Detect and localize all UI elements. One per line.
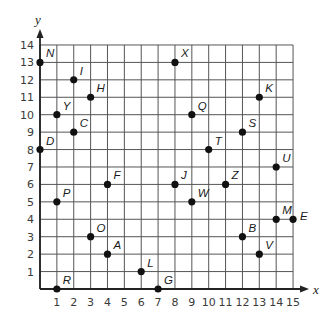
point-label-Y: Y — [63, 100, 72, 112]
x-tick-label: 3 — [87, 296, 94, 309]
point-T — [205, 146, 212, 153]
point-G — [154, 285, 161, 292]
y-tick-label: 6 — [27, 178, 34, 191]
coordinate-grid: 1234567891011121314151234567891011121314… — [0, 0, 335, 318]
grid-lines — [40, 45, 293, 289]
point-C — [70, 129, 77, 136]
y-tick-label: 12 — [20, 74, 34, 87]
y-axis-label: y — [33, 12, 41, 27]
y-tick-label: 10 — [20, 109, 34, 122]
x-tick-label: 5 — [121, 296, 128, 309]
x-tick-label: 1 — [53, 296, 60, 309]
point-label-M: M — [282, 204, 292, 216]
point-Z — [222, 181, 229, 188]
point-S — [239, 129, 246, 136]
point-W — [188, 198, 195, 205]
point-label-X: X — [180, 47, 190, 59]
axes — [37, 29, 310, 293]
y-tick-label: 11 — [20, 91, 34, 104]
point-label-P: P — [63, 187, 71, 199]
x-tick-label: 9 — [188, 296, 195, 309]
y-tick-label: 4 — [27, 213, 34, 226]
point-label-V: V — [265, 239, 274, 251]
point-J — [171, 181, 178, 188]
point-X — [171, 59, 178, 66]
point-R — [53, 285, 60, 292]
x-tick-label: 13 — [252, 296, 266, 309]
y-tick-label: 9 — [27, 126, 34, 139]
point-label-L: L — [147, 257, 153, 269]
y-tick-label: 7 — [27, 161, 34, 174]
y-tick-label: 1 — [27, 266, 34, 279]
x-tick-label: 2 — [70, 296, 77, 309]
point-D — [36, 146, 43, 153]
point-label-D: D — [46, 135, 54, 147]
point-label-S: S — [248, 117, 256, 129]
point-label-Z: Z — [231, 169, 240, 181]
point-label-I: I — [80, 65, 84, 77]
point-U — [273, 163, 280, 170]
point-label-N: N — [46, 47, 55, 59]
point-label-C: C — [80, 117, 89, 129]
point-K — [256, 94, 263, 101]
y-tick-label: 13 — [20, 56, 34, 69]
point-Q — [188, 111, 195, 118]
y-tick-label: 5 — [27, 196, 34, 209]
point-label-F: F — [113, 169, 121, 181]
point-label-H: H — [97, 82, 106, 94]
y-tick-label: 2 — [27, 248, 34, 261]
point-label-O: O — [97, 222, 106, 234]
x-tick-label: 11 — [219, 296, 233, 309]
point-label-E: E — [300, 210, 308, 222]
point-H — [87, 94, 94, 101]
point-label-W: W — [198, 187, 210, 199]
y-tick-label: 14 — [20, 39, 34, 52]
point-label-R: R — [63, 274, 71, 286]
point-Y — [53, 111, 60, 118]
point-L — [138, 268, 145, 275]
x-tick-label: 10 — [202, 296, 216, 309]
point-A — [104, 251, 111, 258]
x-axis-label: x — [312, 282, 319, 297]
point-V — [256, 251, 263, 258]
point-label-T: T — [215, 135, 223, 147]
point-label-B: B — [248, 222, 256, 234]
point-M — [273, 216, 280, 223]
x-tick-label: 4 — [104, 296, 111, 309]
point-label-U: U — [282, 152, 291, 164]
point-N — [36, 59, 43, 66]
point-label-K: K — [265, 82, 274, 94]
y-axis-arrow-icon — [37, 29, 44, 38]
x-tick-label: 6 — [138, 296, 145, 309]
point-P — [53, 198, 60, 205]
y-tick-label: 8 — [27, 144, 34, 157]
x-tick-label: 15 — [286, 296, 300, 309]
x-axis-arrow-icon — [300, 286, 309, 293]
point-O — [87, 233, 94, 240]
point-B — [239, 233, 246, 240]
points: NIHYCDFPOALRGXKQSTUJZWMEBV — [36, 47, 308, 292]
point-label-J: J — [180, 169, 187, 181]
point-E — [289, 216, 296, 223]
point-I — [70, 76, 77, 83]
point-label-G: G — [164, 274, 173, 286]
point-label-A: A — [112, 239, 121, 251]
x-tick-label: 8 — [171, 296, 178, 309]
x-tick-label: 14 — [269, 296, 283, 309]
point-F — [104, 181, 111, 188]
y-tick-label: 3 — [27, 231, 34, 244]
x-tick-label: 7 — [155, 296, 162, 309]
x-tick-label: 12 — [235, 296, 249, 309]
point-label-Q: Q — [198, 100, 207, 112]
